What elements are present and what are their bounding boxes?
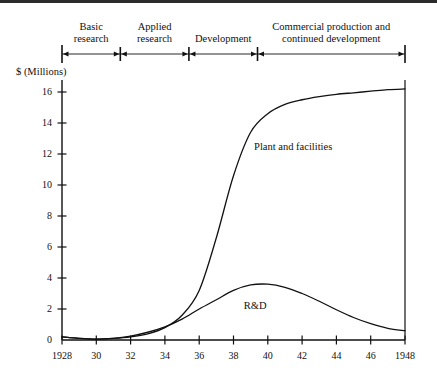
y-axis-tick-label: 16 [26,86,52,97]
phase-arrow-head [182,51,188,56]
y-axis-tick-label: 4 [26,272,52,283]
y-axis-tick-label: 0 [26,334,52,345]
y-axis-tick-label: 12 [26,148,52,159]
y-axis-label: $ (Millions) [16,66,66,77]
x-axis-tick-label: 1948 [385,350,425,361]
y-axis-tick-label: 8 [26,210,52,221]
series-curve-plant-and-facilities [62,89,405,339]
phase-arrow-head [121,51,127,56]
rd-plant-investment-chart: $ (Millions) Basic researchApplied resea… [0,0,437,379]
phase-arrow-head [63,51,69,56]
series-label-plant-and-facilities: Plant and facilities [254,141,332,152]
phase-arrow-head [190,51,196,56]
phase-arrow-head [114,51,120,56]
y-axis-tick-label: 10 [26,179,52,190]
y-axis-tick-label: 6 [26,241,52,252]
series-label-rd: R&D [244,300,267,311]
phase-arrow-head [399,51,405,56]
series-curve-rd [62,284,405,339]
phase-arrow-head [259,51,265,56]
chart-canvas [0,0,437,379]
phase-arrow-head [251,51,257,56]
phase-label-4: Commercial production and continued deve… [256,21,406,44]
y-axis-tick-label: 14 [26,117,52,128]
y-axis-tick-label: 2 [26,303,52,314]
